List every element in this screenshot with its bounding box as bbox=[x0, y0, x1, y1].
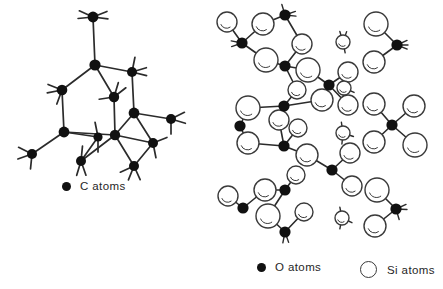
carbon-atom bbox=[76, 156, 86, 166]
carbon-atom bbox=[129, 161, 139, 171]
carbon-bond bbox=[62, 90, 64, 132]
carbon-atom bbox=[109, 92, 119, 102]
carbon-bond bbox=[114, 97, 115, 135]
carbon-atom bbox=[93, 132, 102, 141]
oxygen-atom bbox=[279, 226, 290, 237]
carbon-bond bbox=[95, 65, 132, 72]
carbon-atom bbox=[110, 130, 120, 140]
silicon-atom bbox=[288, 81, 306, 99]
oxygen-atom-group bbox=[234, 9, 402, 237]
silicon-atom bbox=[289, 119, 307, 137]
silicon-atom bbox=[296, 144, 318, 166]
oxygen-atom bbox=[390, 203, 401, 214]
legend-carbon-label: C atoms bbox=[80, 180, 126, 192]
carbon-bond bbox=[134, 113, 171, 119]
silicon-atom bbox=[292, 34, 312, 54]
carbon-network-diagram bbox=[0, 0, 222, 200]
legend-silicon-label: Si atoms bbox=[387, 264, 435, 276]
figure-root: C atoms O atoms Si atoms bbox=[0, 0, 443, 289]
oxygen-atom bbox=[279, 60, 290, 71]
carbon-structure-panel bbox=[0, 0, 222, 210]
carbon-bond bbox=[115, 135, 153, 143]
oxygen-atom bbox=[323, 79, 334, 90]
silicon-atom bbox=[336, 35, 350, 49]
filled-circle-marker bbox=[62, 182, 71, 191]
carbon-atom bbox=[57, 85, 68, 96]
silicon-atom bbox=[236, 96, 260, 120]
legend-oxygen-label: O atoms bbox=[275, 261, 321, 273]
legend-silicon: Si atoms bbox=[360, 261, 435, 278]
silicon-atom bbox=[252, 13, 274, 35]
oxygen-atom bbox=[278, 140, 289, 151]
silicon-atom bbox=[363, 93, 385, 115]
silicon-atom bbox=[295, 203, 313, 221]
silicon-atom bbox=[254, 48, 278, 72]
silicon-atom bbox=[363, 51, 385, 73]
legend-oxygen: O atoms bbox=[257, 261, 321, 273]
carbon-atom bbox=[88, 12, 99, 23]
silicon-atom bbox=[269, 110, 289, 130]
oxygen-atom bbox=[326, 164, 337, 175]
silicon-atom bbox=[364, 12, 388, 36]
silica-structure-panel bbox=[222, 0, 443, 289]
silicon-atom bbox=[338, 62, 358, 82]
silicon-atom bbox=[256, 204, 280, 228]
carbon-atom bbox=[89, 59, 100, 70]
silicon-atom bbox=[338, 95, 358, 115]
filled-circle-marker bbox=[257, 263, 266, 272]
silicon-atom bbox=[403, 133, 427, 157]
silica-network-diagram bbox=[222, 0, 443, 255]
carbon-atom bbox=[59, 127, 70, 138]
oxygen-atom bbox=[386, 119, 397, 130]
carbon-atom bbox=[27, 149, 37, 159]
carbon-bond bbox=[32, 132, 64, 154]
carbon-bond bbox=[62, 65, 95, 90]
silicon-atom bbox=[217, 12, 237, 32]
open-circle-marker bbox=[360, 261, 377, 278]
silicon-atom bbox=[364, 215, 386, 237]
oxygen-atom bbox=[279, 9, 290, 20]
carbon-atom bbox=[129, 108, 140, 119]
oxygen-atom bbox=[279, 184, 290, 195]
carbon-atom bbox=[166, 114, 176, 124]
silicon-atom bbox=[363, 131, 385, 153]
oxygen-atom bbox=[236, 37, 247, 48]
carbon-bond bbox=[115, 135, 134, 166]
oxygen-atom bbox=[391, 39, 402, 50]
oxygen-atom bbox=[234, 120, 245, 131]
carbon-atom bbox=[127, 67, 137, 77]
silicon-atom bbox=[218, 186, 238, 206]
silicon-atom bbox=[365, 178, 389, 202]
carbon-atom bbox=[148, 138, 158, 148]
silicon-atom bbox=[237, 132, 259, 154]
silicon-atom bbox=[254, 179, 276, 201]
silicon-atom bbox=[287, 166, 305, 184]
silicon-atom bbox=[311, 89, 333, 111]
carbon-bond bbox=[93, 17, 95, 65]
carbon-bond bbox=[132, 72, 134, 113]
silicon-atom bbox=[335, 211, 349, 225]
carbon-bond-group bbox=[18, 11, 186, 180]
silicon-atom bbox=[337, 81, 351, 95]
silicon-atom bbox=[403, 95, 425, 117]
oxygen-atom bbox=[278, 100, 289, 111]
oxygen-atom bbox=[237, 202, 248, 213]
legend-carbon: C atoms bbox=[62, 180, 126, 192]
silicon-atom bbox=[342, 176, 362, 196]
silicon-atom bbox=[340, 143, 360, 163]
silicon-atom bbox=[296, 58, 320, 82]
silicon-atom bbox=[336, 126, 350, 140]
carbon-atom-group bbox=[27, 12, 176, 171]
